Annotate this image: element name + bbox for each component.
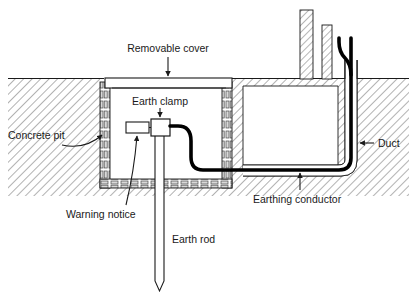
label-earthing-conductor: Earthing conductor bbox=[253, 193, 342, 205]
wall-outer bbox=[300, 10, 313, 79]
label-concrete-pit: Concrete pit bbox=[8, 129, 65, 141]
earth-rod-shaft bbox=[155, 126, 164, 291]
removable-cover[interactable] bbox=[105, 78, 232, 88]
label-removable-cover: Removable cover bbox=[127, 42, 209, 54]
warning-notice-plate bbox=[126, 122, 149, 133]
duct-chamber-void bbox=[243, 86, 338, 170]
earth-clamp[interactable] bbox=[151, 119, 170, 136]
earth-clamp-body bbox=[151, 119, 170, 136]
removable-cover-slab bbox=[105, 78, 232, 88]
ground-under-pit bbox=[100, 188, 243, 196]
earth-pit-diagram: Removable cover Earth clamp Concrete pit… bbox=[0, 0, 417, 303]
label-warning-notice: Warning notice bbox=[66, 208, 136, 220]
wall-inner bbox=[322, 25, 332, 79]
earth-rod[interactable] bbox=[155, 126, 164, 291]
pit-wall-right bbox=[222, 82, 232, 188]
label-duct: Duct bbox=[378, 137, 400, 149]
label-earth-rod: Earth rod bbox=[172, 233, 215, 245]
pit-floor bbox=[100, 179, 232, 188]
label-earth-clamp: Earth clamp bbox=[132, 95, 188, 107]
warning-notice[interactable] bbox=[126, 122, 151, 133]
diagram-canvas: Removable cover Earth clamp Concrete pit… bbox=[0, 0, 417, 303]
